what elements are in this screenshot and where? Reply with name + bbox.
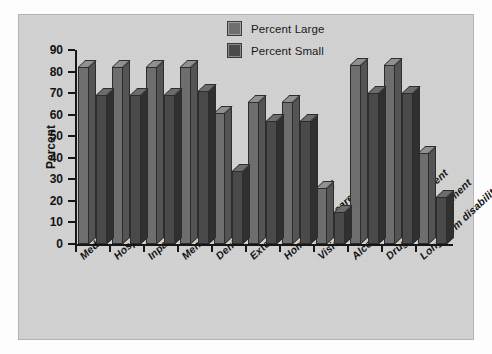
bar-side-face (89, 61, 96, 244)
y-tick-0: 0 (68, 243, 75, 245)
bar-4-1 (232, 171, 243, 244)
bar-3-1 (198, 91, 209, 244)
bar-side-face (379, 87, 386, 244)
bar-side-face (311, 115, 318, 244)
bar-side-face (157, 61, 164, 244)
y-tick-label-50: 50 (50, 129, 63, 143)
x-axis-labels: MedicalHospital room/boardInpatient surg… (75, 247, 475, 354)
bar-front (164, 95, 175, 244)
bar-front (266, 121, 277, 244)
bar-2-1 (164, 95, 175, 244)
bar-side-face (209, 84, 216, 244)
y-tick-label-90: 90 (50, 43, 63, 57)
bar-5-1 (266, 121, 277, 244)
chart-legend: Percent Large Percent Small (227, 21, 325, 65)
bar-side-face (327, 181, 334, 244)
y-tick-label-20: 20 (50, 194, 63, 208)
y-tick-label-0: 0 (56, 237, 63, 251)
bar-front (300, 121, 311, 244)
bar-front (130, 95, 141, 244)
legend-item-percent-small: Percent Small (227, 43, 325, 58)
bar-side-face (123, 61, 130, 244)
y-tick-60: 60 (68, 114, 75, 116)
y-tick-10: 10 (68, 221, 75, 223)
bar-9-1 (402, 93, 413, 244)
bar-side-face (429, 147, 436, 244)
bar-side-face (395, 59, 402, 244)
bar-front (402, 93, 413, 244)
plot-area: Percent 0102030405060708090 (75, 50, 449, 244)
y-tick-label-80: 80 (50, 65, 63, 79)
y-tick-label-30: 30 (50, 172, 63, 186)
bar-front (198, 91, 209, 244)
bar-side-face (447, 190, 454, 244)
bar-side-face (175, 89, 182, 244)
bar-front (334, 212, 345, 244)
legend-item-percent-large: Percent Large (227, 21, 325, 36)
bar-front (368, 93, 379, 244)
y-tick-label-60: 60 (50, 108, 63, 122)
legend-swatch-percent-small (227, 43, 242, 58)
bar-side-face (277, 115, 284, 244)
bar-side-face (413, 87, 420, 244)
bar-front (96, 95, 107, 244)
y-tick-50: 50 (68, 135, 75, 137)
chart-panel: Percent Large Percent Small Percent 0102… (18, 14, 474, 340)
bar-10-1 (436, 197, 447, 244)
bar-6-1 (300, 121, 311, 244)
bar-side-face (141, 89, 148, 244)
bar-side-face (107, 89, 114, 244)
bar-side-face (191, 61, 198, 244)
bar-side-face (361, 59, 368, 244)
y-tick-90: 90 (68, 49, 75, 51)
bar-0-1 (96, 95, 107, 244)
bar-side-face (225, 106, 232, 244)
legend-label-percent-small: Percent Small (251, 45, 324, 57)
bar-1-1 (130, 95, 141, 244)
bar-0-0 (78, 67, 89, 244)
bar-side-face (293, 95, 300, 244)
bar-front (232, 171, 243, 244)
y-tick-80: 80 (68, 71, 75, 73)
chart-page: Percent Large Percent Small Percent 0102… (0, 0, 492, 354)
legend-swatch-percent-large (227, 21, 242, 36)
bar-8-1 (368, 93, 379, 244)
y-tick-20: 20 (68, 200, 75, 202)
y-tick-label-10: 10 (50, 215, 63, 229)
bar-side-face (243, 164, 250, 244)
y-axis-line (75, 50, 77, 244)
y-tick-label-40: 40 (50, 151, 63, 165)
y-tick-label-70: 70 (50, 86, 63, 100)
legend-label-percent-large: Percent Large (251, 23, 325, 35)
bar-front (436, 197, 447, 244)
y-tick-40: 40 (68, 157, 75, 159)
bar-7-1 (334, 212, 345, 244)
y-tick-30: 30 (68, 178, 75, 180)
bar-side-face (259, 95, 266, 244)
y-tick-70: 70 (68, 92, 75, 94)
bar-front (78, 67, 89, 244)
